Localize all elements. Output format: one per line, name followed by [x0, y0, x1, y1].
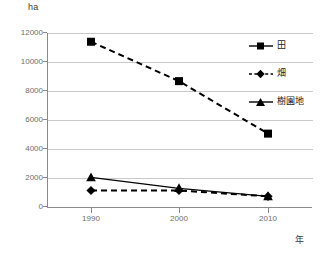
line-chart: ha 12000 10000 8000 6000 4000 2000 0	[0, 0, 328, 255]
data-point-2-0	[86, 172, 96, 181]
square-marker	[248, 38, 274, 50]
triangle-marker	[248, 94, 274, 106]
legend-item-0[interactable]: 田	[248, 30, 322, 58]
legend: 田 畑 樹園地	[248, 30, 322, 114]
legend-label-1: 畑	[277, 66, 286, 79]
data-point-1-0	[86, 186, 95, 195]
legend-label-0: 田	[277, 38, 286, 51]
data-point-0-2	[264, 130, 272, 138]
legend-item-2[interactable]: 樹園地	[248, 86, 322, 114]
legend-item-1[interactable]: 畑	[248, 58, 322, 86]
series-line-0	[91, 42, 268, 134]
legend-label-2: 樹園地	[277, 94, 304, 107]
diamond-marker	[248, 66, 274, 78]
data-point-0-1	[175, 77, 183, 85]
data-point-0-0	[87, 38, 95, 46]
